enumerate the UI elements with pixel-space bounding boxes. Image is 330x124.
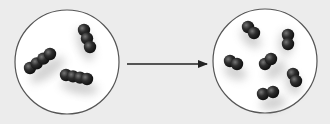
reaction-diagram	[0, 0, 330, 124]
products-panel	[213, 9, 317, 113]
reactants-panel	[15, 10, 119, 114]
